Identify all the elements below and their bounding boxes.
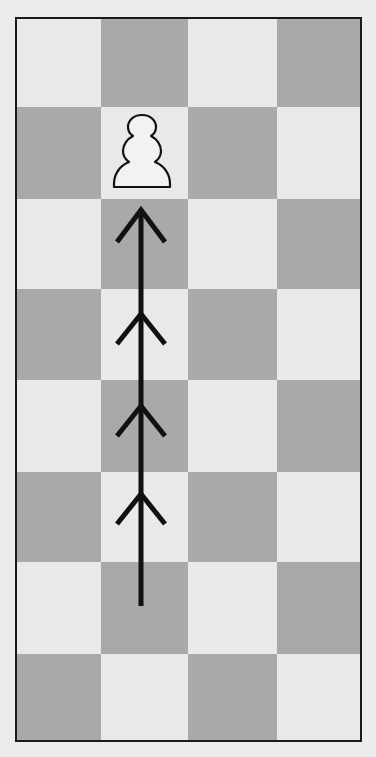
board-square-r8-c3 [188,654,277,740]
board-square-r8-c2 [101,654,188,740]
board-square-r7-c1 [17,562,101,654]
board-square-r6-c3 [188,472,277,562]
chess-board [15,17,362,742]
board-square-r2-c1 [17,107,101,199]
board-square-r3-c2 [101,199,188,289]
board-square-r1-c4 [277,19,360,107]
board-square-r2-c4 [277,107,360,199]
board-square-r3-c4 [277,199,360,289]
board-square-r6-c4 [277,472,360,562]
board-square-r4-c1 [17,289,101,380]
board-square-r3-c1 [17,199,101,289]
board-square-r1-c1 [17,19,101,107]
board-square-r7-c3 [188,562,277,654]
board-square-r4-c3 [188,289,277,380]
board-square-r5-c3 [188,380,277,472]
board-square-r5-c4 [277,380,360,472]
board-square-r3-c3 [188,199,277,289]
board-square-r2-c2 [101,107,188,199]
board-square-r6-c2 [101,472,188,562]
board-square-r2-c3 [188,107,277,199]
board-square-r5-c2 [101,380,188,472]
board-square-r4-c4 [277,289,360,380]
board-square-r8-c4 [277,654,360,740]
board-square-r6-c1 [17,472,101,562]
board-square-r1-c3 [188,19,277,107]
board-square-r7-c4 [277,562,360,654]
board-square-r8-c1 [17,654,101,740]
board-square-r1-c2 [101,19,188,107]
board-square-r7-c2 [101,562,188,654]
board-square-r5-c1 [17,380,101,472]
board-square-r4-c2 [101,289,188,380]
